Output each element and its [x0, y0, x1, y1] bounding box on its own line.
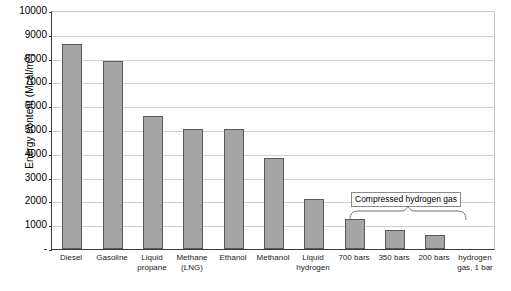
y-axis-tick-label: 6000 — [1, 101, 47, 111]
y-axis-tick-label: 7000 — [1, 77, 47, 87]
bar — [62, 44, 82, 249]
y-axis-tick-label: 1000 — [1, 220, 47, 230]
bar — [425, 235, 445, 249]
x-axis-tick-label: hydrogengas, 1 bar — [447, 253, 503, 272]
x-axis-tick-labels: DieselGasolineLiquidpropaneMethane(LNG)E… — [51, 253, 495, 291]
bar — [385, 230, 405, 249]
y-axis-tick-label: 4000 — [1, 149, 47, 159]
bar — [103, 61, 123, 249]
bar — [345, 219, 365, 249]
y-axis-tick-label: 8000 — [1, 54, 47, 64]
y-axis-tickmark — [49, 250, 52, 251]
bar — [143, 116, 163, 249]
y-axis-tick-label: 2000 — [1, 196, 47, 206]
y-axis-tick-label: 5000 — [1, 125, 47, 135]
bar — [183, 129, 203, 249]
y-axis-tick-label: 3000 — [1, 173, 47, 183]
y-axis-tick-label: - — [1, 244, 47, 254]
y-axis-tick-labels: 1000090008000700060005000400030002000100… — [0, 0, 47, 291]
y-axis-tick-label: 9000 — [1, 30, 47, 40]
brace-icon — [348, 205, 468, 221]
bar — [224, 129, 244, 249]
y-axis-tick-label: 10000 — [1, 6, 47, 16]
energy-content-bar-chart: Energy content (Mcal/m3) 100009000800070… — [0, 0, 511, 291]
bar — [264, 158, 284, 249]
bar — [304, 199, 324, 249]
